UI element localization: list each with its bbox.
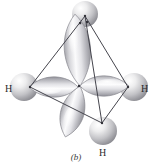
atom-label-h-left: H bbox=[5, 84, 12, 94]
vertex-marker-h-bottom bbox=[101, 122, 103, 124]
vertex-marker-h-right bbox=[127, 86, 129, 88]
vertex-marker-h-left bbox=[29, 86, 31, 88]
vertex-tick-top-b bbox=[86, 21, 88, 23]
vertex-marker-h-top bbox=[84, 15, 86, 17]
atom-label-h-right: H bbox=[141, 84, 148, 94]
molecular-orbital-figure: H H H (b) bbox=[0, 0, 152, 166]
figure-caption: (b) bbox=[0, 152, 152, 162]
vertex-tick-top-a bbox=[79, 22, 81, 24]
molecule-diagram bbox=[0, 0, 152, 166]
vertex-marker-center bbox=[78, 85, 80, 87]
